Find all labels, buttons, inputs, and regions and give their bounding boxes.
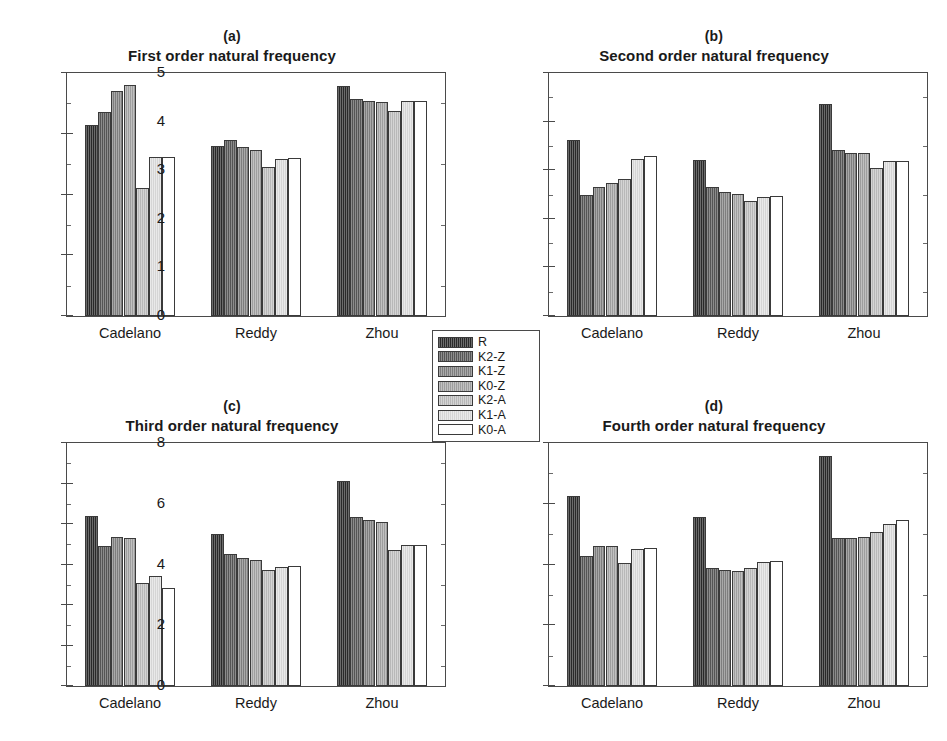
tick-mark-right [543, 266, 549, 267]
y-axis-minor-tick [549, 534, 553, 535]
bar-a-cadelano-k1-a [149, 157, 162, 316]
legend-label-k2-z: K2-Z [478, 351, 505, 364]
bar-a-zhou-k2-z [350, 99, 363, 316]
y-axis-tick-label: 4 [119, 555, 165, 572]
bar-c-cadelano-k2-a [136, 583, 149, 686]
y-axis-tick-label: 0 [119, 306, 165, 323]
bar-a-reddy-k2-z [224, 140, 237, 316]
panel-a-title: First order natural frequency [8, 47, 456, 64]
legend-item-k2-z: K2-Z [438, 350, 534, 365]
bar-c-reddy-k1-z [237, 558, 250, 686]
legend-label-k1-a: K1-A [478, 409, 506, 422]
y-axis-minor-tick-right [441, 103, 445, 104]
bar-a-reddy-k0-z [250, 150, 263, 316]
bar-c-reddy-k0-z [250, 560, 263, 686]
y-axis-minor-tick-right [441, 666, 445, 667]
bar-c-reddy-r [211, 534, 224, 686]
y-axis-minor-tick [549, 473, 553, 474]
y-axis-minor-tick [67, 463, 71, 464]
bar-d-cadelano-k2-z [580, 556, 593, 686]
y-axis-minor-tick-right [923, 534, 927, 535]
legend-item-k1-a: K1-A [438, 408, 534, 423]
legend-swatch-r [438, 337, 473, 348]
tick-mark [67, 133, 73, 134]
panel-c-title: Third order natural frequency [8, 417, 456, 434]
legend-swatch-k2-a [438, 395, 473, 406]
x-axis-group-label-reddy: Reddy [693, 325, 784, 341]
bar-d-cadelano-k2-a [618, 563, 631, 686]
bar-a-cadelano-r [85, 125, 98, 316]
y-axis-tick-label: 5 [119, 63, 165, 80]
y-axis-minor-tick [549, 97, 553, 98]
bar-d-reddy-k1-a [757, 562, 770, 686]
x-axis-group-label-zhou: Zhou [337, 695, 428, 711]
tick-mark-right [543, 218, 549, 219]
x-axis-group-label-cadelano: Cadelano [567, 695, 658, 711]
y-axis-minor-tick [67, 585, 71, 586]
bar-d-cadelano-k0-z [606, 546, 619, 686]
bar-group-reddy: Reddy [693, 73, 784, 316]
bar-b-reddy-r [693, 160, 706, 316]
bar-a-zhou-k1-z [363, 101, 376, 316]
bar-c-cadelano-k2-z [98, 546, 111, 686]
tick-mark [67, 72, 73, 73]
tick-mark-right [543, 121, 549, 122]
tick-mark-right [543, 564, 549, 565]
tick-mark-right [61, 194, 67, 195]
bar-b-zhou-k2-z [832, 150, 845, 316]
bar-d-zhou-k0-z [858, 537, 871, 686]
legend-label-k0-a: K0-A [478, 424, 506, 437]
y-axis-minor-tick-right [923, 292, 927, 293]
bar-a-reddy-k0-a [288, 158, 301, 316]
bar-b-zhou-k1-z [845, 153, 858, 316]
bar-c-zhou-k0-a [414, 545, 427, 686]
bar-c-zhou-k1-a [401, 545, 414, 686]
bar-c-reddy-k2-z [224, 554, 237, 686]
panel-b-letter: (b) [490, 28, 938, 44]
bar-b-cadelano-k0-a [644, 156, 657, 316]
panel-d-letter: (d) [490, 398, 938, 414]
bar-d-reddy-r [693, 517, 706, 686]
x-axis-group-label-cadelano: Cadelano [567, 325, 658, 341]
legend-item-k1-z: K1-Z [438, 364, 534, 379]
bar-d-reddy-k0-z [732, 571, 745, 686]
bar-group-cadelano: Cadelano [567, 443, 658, 686]
bar-d-zhou-k1-a [883, 524, 896, 686]
x-axis-group-label-reddy: Reddy [693, 695, 784, 711]
legend-item-r: R [438, 335, 534, 350]
tick-mark-right [61, 645, 67, 646]
tick-mark-right [543, 624, 549, 625]
bar-a-zhou-k1-a [401, 101, 414, 316]
tick-mark [549, 218, 555, 219]
bar-a-reddy-k1-a [275, 159, 288, 316]
bar-a-cadelano-k2-z [98, 112, 111, 316]
x-axis-group-label-cadelano: Cadelano [85, 325, 176, 341]
bar-group-zhou: Zhou [337, 73, 428, 316]
bar-c-zhou-r [337, 481, 350, 686]
bar-c-reddy-k2-a [262, 570, 275, 686]
bar-c-reddy-k1-a [275, 567, 288, 686]
x-axis-group-label-reddy: Reddy [211, 325, 302, 341]
y-axis-minor-tick [549, 292, 553, 293]
tick-mark-right [61, 72, 67, 73]
y-axis-minor-tick [67, 225, 71, 226]
tick-mark [67, 604, 73, 605]
bar-d-reddy-k1-z [719, 570, 732, 686]
tick-mark-right [61, 133, 67, 134]
bar-a-zhou-k0-z [376, 102, 389, 316]
y-axis-minor-tick-right [441, 164, 445, 165]
y-axis-minor-tick [67, 544, 71, 545]
legend-item-k0-a: K0-A [438, 423, 534, 438]
tick-mark-right [543, 442, 549, 443]
bar-b-zhou-r [819, 104, 832, 316]
bar-b-cadelano-k1-a [631, 159, 644, 316]
bar-group-zhou: Zhou [337, 443, 428, 686]
panel-d: (d) Fourth order natural frequency 02468… [490, 398, 938, 728]
bar-b-reddy-k2-a [744, 201, 757, 316]
bar-b-cadelano-k1-z [593, 187, 606, 316]
y-axis-minor-tick-right [923, 473, 927, 474]
legend-item-k0-z: K0-Z [438, 379, 534, 394]
panel-c-letter: (c) [8, 398, 456, 414]
tick-mark-right [61, 523, 67, 524]
bar-d-cadelano-k1-z [593, 546, 606, 686]
